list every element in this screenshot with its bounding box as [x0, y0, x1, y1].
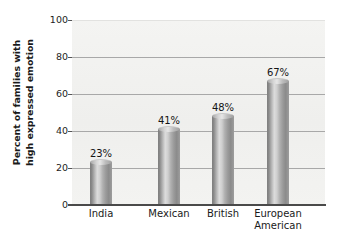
bar-cap-india	[90, 159, 112, 165]
bar-european-american[interactable]	[267, 81, 289, 205]
y-axis-title: Percent of families with high expressed …	[8, 0, 38, 205]
bar-india[interactable]	[90, 162, 112, 205]
bar-chart-figure: Percent of families with high expressed …	[0, 0, 339, 239]
x-category-label-european-american-line-1: European	[235, 208, 321, 220]
bar-cap-british	[212, 113, 234, 119]
gridline-80	[72, 57, 325, 58]
y-tick-label-80: 80	[42, 52, 68, 62]
y-axis-tick-labels: 100 80 60 40 20 0	[38, 0, 68, 239]
bar-cap-mexican	[158, 126, 180, 132]
y-axis-title-line-1: Percent of families with	[11, 39, 24, 166]
x-category-label-european-american-line-2: American	[235, 220, 321, 232]
y-axis-title-line-2: high expressed emotion	[23, 39, 36, 166]
plot-area: 23% 41% 48% 67%	[72, 20, 325, 205]
bar-mexican[interactable]	[158, 129, 180, 205]
y-tick-label-40: 40	[42, 126, 68, 136]
x-category-label-european-american: European American	[235, 208, 321, 232]
bar-value-british: 48%	[200, 102, 246, 113]
bar-value-india: 23%	[78, 148, 124, 159]
y-tick-label-60: 60	[42, 89, 68, 99]
y-tick-label-100: 100	[42, 15, 68, 25]
bar-british[interactable]	[212, 116, 234, 205]
x-axis-line	[68, 204, 326, 206]
y-tick-label-20: 20	[42, 163, 68, 173]
bar-value-european-american: 67%	[255, 67, 301, 78]
bar-value-mexican: 41%	[146, 115, 192, 126]
gridline-100	[72, 20, 325, 21]
bar-cap-european-american	[267, 78, 289, 84]
